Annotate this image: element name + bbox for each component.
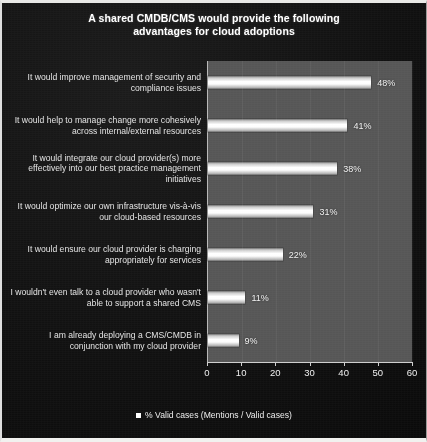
- plot-cell: 48%: [207, 61, 412, 104]
- x-axis-tick-label: 60: [407, 367, 418, 378]
- bar-value-label: 22%: [289, 250, 307, 260]
- x-axis-tick: [310, 362, 311, 366]
- x-axis-tick-label: 0: [204, 367, 209, 378]
- x-axis-tick: [207, 362, 208, 366]
- category-label: It would ensure our cloud provider is ch…: [7, 244, 207, 265]
- bar-row: I wouldn't even talk to a cloud provider…: [7, 276, 412, 319]
- bar-row: It would ensure our cloud provider is ch…: [7, 233, 412, 276]
- bar[interactable]: [208, 119, 347, 132]
- x-axis-tick-label: 10: [236, 367, 247, 378]
- bar[interactable]: [208, 334, 239, 347]
- x-axis-tick-label: 20: [270, 367, 281, 378]
- x-axis-tick: [412, 362, 413, 366]
- x-axis-tick-label: 30: [304, 367, 315, 378]
- plot-cell: 38%: [207, 147, 412, 190]
- bar[interactable]: [208, 205, 313, 218]
- category-label: It would integrate our cloud provider(s)…: [7, 153, 207, 185]
- category-label: It would improve management of security …: [7, 72, 207, 93]
- x-axis-tick: [241, 362, 242, 366]
- bar-value-label: 41%: [353, 121, 371, 131]
- x-axis-tick-label: 40: [338, 367, 349, 378]
- bar[interactable]: [208, 76, 371, 89]
- gridlines: [208, 319, 412, 362]
- x-axis-tick: [275, 362, 276, 366]
- bar-value-label: 31%: [319, 207, 337, 217]
- plot-cell: 31%: [207, 190, 412, 233]
- chart-legend: % Valid cases (Mentions / Valid cases): [2, 410, 426, 420]
- bar-row: I am already deploying a CMS/CMDB in con…: [7, 319, 412, 362]
- bar[interactable]: [208, 291, 245, 304]
- legend-label: % Valid cases (Mentions / Valid cases): [145, 410, 292, 420]
- plot-cell: 41%: [207, 104, 412, 147]
- category-label: I wouldn't even talk to a cloud provider…: [7, 287, 207, 308]
- chart-title-line-1: A shared CMDB/CMS would provide the foll…: [60, 12, 368, 25]
- category-label: It would optimize our own infrastructure…: [7, 201, 207, 222]
- bar-rows: It would improve management of security …: [7, 61, 412, 362]
- plot-cell: 11%: [207, 276, 412, 319]
- category-label: It would help to manage change more cohe…: [7, 115, 207, 136]
- x-axis-tick-label: 50: [373, 367, 384, 378]
- chart-title-line-2: advantages for cloud adoptions: [60, 25, 368, 38]
- chart-body: It would improve management of security …: [7, 61, 412, 386]
- bar-row: It would optimize our own infrastructure…: [7, 190, 412, 233]
- plot-cell: 22%: [207, 233, 412, 276]
- x-axis: 0102030405060: [207, 362, 412, 386]
- bar-value-label: 11%: [251, 293, 268, 303]
- bar-value-label: 48%: [377, 78, 395, 88]
- bar-row: It would improve management of security …: [7, 61, 412, 104]
- legend-swatch-icon: [136, 413, 141, 418]
- category-label: I am already deploying a CMS/CMDB in con…: [7, 330, 207, 351]
- chart-frame: A shared CMDB/CMS would provide the foll…: [0, 0, 427, 442]
- bar-row: It would integrate our cloud provider(s)…: [7, 147, 412, 190]
- x-axis-tick: [378, 362, 379, 366]
- x-axis-tick: [344, 362, 345, 366]
- chart-title: A shared CMDB/CMS would provide the foll…: [2, 12, 426, 38]
- bar-row: It would help to manage change more cohe…: [7, 104, 412, 147]
- bar-value-label: 9%: [245, 336, 258, 346]
- bar[interactable]: [208, 162, 337, 175]
- bar-value-label: 38%: [343, 164, 361, 174]
- bar[interactable]: [208, 248, 283, 261]
- plot-cell: 9%: [207, 319, 412, 362]
